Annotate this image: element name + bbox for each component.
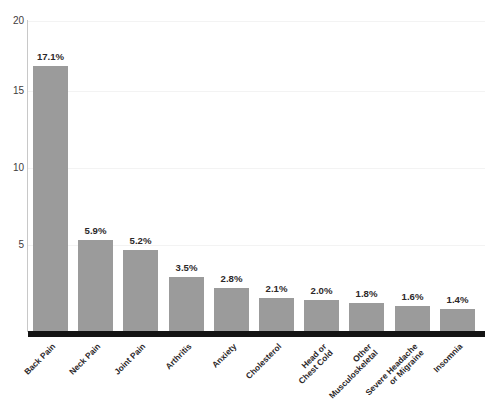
x-axis-category-label: Arthritis	[169, 340, 204, 411]
bar-group[interactable]: 5.2%	[123, 0, 158, 331]
bar[interactable]	[169, 277, 204, 331]
x-axis-category-label: Neck Pain	[78, 340, 113, 411]
x-axis-category-label: Insomnia	[440, 340, 475, 411]
bar[interactable]	[123, 250, 158, 331]
bar-group[interactable]: 1.6%	[395, 0, 430, 331]
bar-value-label: 5.9%	[69, 226, 122, 236]
bar[interactable]	[33, 66, 68, 331]
bar-value-label: 1.4%	[431, 295, 484, 305]
bar[interactable]	[349, 303, 384, 331]
bar[interactable]	[304, 300, 339, 331]
x-axis-category-label: Anxiety	[214, 340, 249, 411]
bar[interactable]	[259, 298, 294, 331]
bar[interactable]	[214, 288, 249, 331]
bar-group[interactable]: 2.8%	[214, 0, 249, 331]
bar-value-label: 5.2%	[114, 236, 167, 246]
bar-group[interactable]: 17.1%	[33, 0, 68, 331]
bar-value-label: 2.8%	[205, 274, 258, 284]
bar-group[interactable]: 2.1%	[259, 0, 294, 331]
bar-group[interactable]: 3.5%	[169, 0, 204, 331]
x-axis-category-label: Joint Pain	[123, 340, 158, 411]
x-axis-category-label: Cholesterol	[259, 340, 294, 411]
y-axis-tick-label: 15	[2, 86, 24, 96]
x-axis-line	[28, 331, 485, 337]
y-axis-tick-label: 20	[2, 16, 24, 26]
bar-group[interactable]: 2.0%	[304, 0, 339, 331]
bar[interactable]	[440, 309, 475, 331]
bar[interactable]	[78, 240, 113, 331]
x-axis-category-label: Back Pain	[33, 340, 68, 411]
bar-group[interactable]: 5.9%	[78, 0, 113, 331]
bar-series: 17.1%5.9%5.2%3.5%2.8%2.1%2.0%1.8%1.6%1.4…	[33, 0, 485, 331]
bar-group[interactable]: 1.8%	[349, 0, 384, 331]
y-axis-tick-labels: 20 15 10 5	[0, 0, 24, 411]
x-axis-category-label: Severe Headacheor Migraine	[395, 340, 430, 411]
bar-value-label: 17.1%	[24, 52, 77, 62]
bar[interactable]	[395, 306, 430, 331]
y-axis-tick-label: 5	[2, 240, 24, 250]
bar-value-label: 3.5%	[160, 263, 213, 273]
bar-chart: 20 15 10 5 17.1%5.9%5.2%3.5%2.8%2.1%2.0%…	[0, 0, 497, 411]
x-axis-category-labels: Back PainNeck PainJoint PainArthritisAnx…	[33, 340, 485, 411]
y-axis-tick-label: 10	[2, 163, 24, 173]
bar-group[interactable]: 1.4%	[440, 0, 475, 331]
